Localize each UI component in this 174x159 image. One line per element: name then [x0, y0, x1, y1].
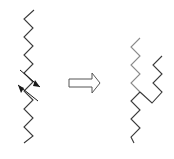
diagram-svg: [0, 0, 174, 159]
right-branch-chain: [140, 56, 162, 103]
diagram-canvas: [0, 0, 174, 159]
right-lower-chain: [131, 92, 140, 143]
transform-arrow-icon: [69, 73, 100, 93]
right-upper-light-chain: [131, 38, 140, 92]
left-zigzag-chain: [24, 10, 34, 143]
